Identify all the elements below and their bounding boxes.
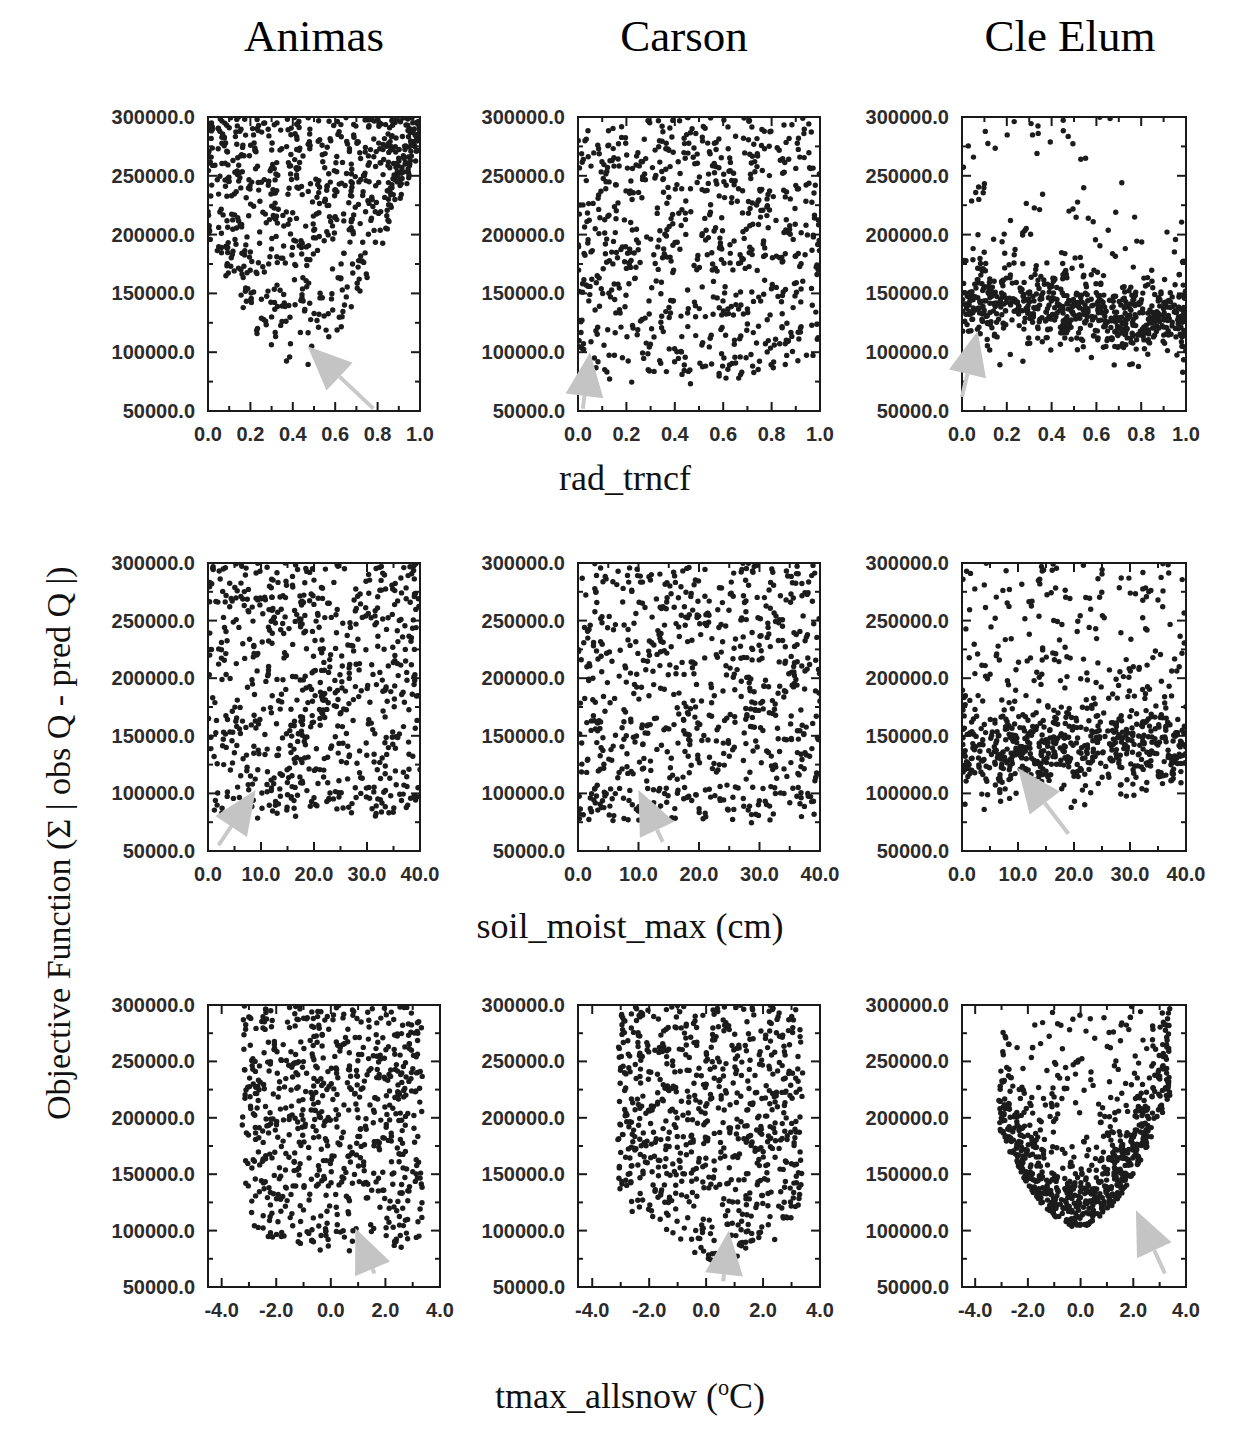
row-label-soil-moist-max: soil_moist_max (cm) [460, 908, 800, 944]
y-tick-label: 150000.0 [482, 1163, 565, 1185]
x-tick-label: 0.8 [758, 423, 786, 445]
y-tick-label: 300000.0 [866, 994, 949, 1016]
x-tick-label: 0.0 [317, 1299, 345, 1321]
y-tick-label: 200000.0 [482, 667, 565, 689]
y-tick-label: 300000.0 [482, 106, 565, 128]
x-tick-label: 20.0 [1055, 863, 1094, 885]
y-tick-label: 200000.0 [866, 224, 949, 246]
scatter-panel: 50000.0100000.0150000.0200000.0250000.03… [448, 103, 842, 455]
column-title-cle-elum: Cle Elum [955, 14, 1185, 59]
data-points [576, 115, 823, 387]
column-title-carson: Carson [578, 14, 790, 59]
data-points [205, 114, 422, 367]
y-tick-label: 100000.0 [112, 782, 195, 804]
x-tick-label: 2.0 [1119, 1299, 1147, 1321]
y-tick-label: 50000.0 [877, 400, 949, 422]
data-points [960, 561, 1189, 813]
scatter-plot: 50000.0100000.0150000.0200000.0250000.03… [448, 549, 842, 895]
x-tick-label: 40.0 [401, 863, 440, 885]
x-tick-label: 10.0 [999, 863, 1038, 885]
x-tick-label: 1.0 [406, 423, 434, 445]
y-tick-label: 150000.0 [112, 1163, 195, 1185]
arrow-shaft [219, 826, 232, 845]
x-tick-label: 20.0 [680, 863, 719, 885]
arrow-shaft [340, 377, 374, 409]
x-tick-label: 0.2 [993, 423, 1021, 445]
scatter-panel: 50000.0100000.0150000.0200000.0250000.03… [78, 103, 442, 455]
scatter-plot: 50000.0100000.0150000.0200000.0250000.03… [832, 991, 1208, 1331]
y-tick-label: 200000.0 [112, 667, 195, 689]
x-tick-label: 0.8 [1127, 423, 1155, 445]
x-tick-label: 2.0 [749, 1299, 777, 1321]
y-tick-label: 100000.0 [866, 782, 949, 804]
x-tick-label: 30.0 [348, 863, 387, 885]
x-tick-label: -2.0 [259, 1299, 293, 1321]
x-tick-label: 0.4 [661, 423, 690, 445]
x-tick-label: 0.6 [709, 423, 737, 445]
y-tick-label: 300000.0 [112, 106, 195, 128]
y-tick-label: 150000.0 [482, 725, 565, 747]
scatter-plot: 50000.0100000.0150000.0200000.0250000.03… [448, 991, 842, 1331]
scatter-plot: 50000.0100000.0150000.0200000.0250000.03… [832, 103, 1208, 455]
x-tick-label: 0.0 [692, 1299, 720, 1321]
y-tick-label: 300000.0 [482, 552, 565, 574]
y-tick-label: 100000.0 [482, 341, 565, 363]
scatter-panel: 50000.0100000.0150000.0200000.0250000.03… [448, 991, 842, 1331]
y-tick-label: 50000.0 [123, 840, 195, 862]
x-tick-label: 2.0 [372, 1299, 400, 1321]
y-tick-label: 300000.0 [112, 552, 195, 574]
x-tick-label: 1.0 [1172, 423, 1200, 445]
x-tick-label: -4.0 [575, 1299, 609, 1321]
x-tick-label: 0.0 [564, 423, 592, 445]
y-tick-label: 150000.0 [482, 282, 565, 304]
scatter-plot: 50000.0100000.0150000.0200000.0250000.03… [78, 991, 462, 1331]
x-tick-label: 0.2 [612, 423, 640, 445]
annotation-arrow [1136, 1210, 1172, 1273]
y-tick-label: 100000.0 [112, 341, 195, 363]
y-tick-label: 250000.0 [112, 610, 195, 632]
x-tick-label: 4.0 [1172, 1299, 1200, 1321]
x-tick-label: 0.8 [364, 423, 392, 445]
y-tick-label: 250000.0 [866, 610, 949, 632]
y-tick-label: 100000.0 [112, 1220, 195, 1242]
x-tick-label: 1.0 [806, 423, 834, 445]
scatter-panel: 50000.0100000.0150000.0200000.0250000.03… [832, 991, 1208, 1331]
y-tick-label: 50000.0 [123, 400, 195, 422]
y-tick-label: 100000.0 [482, 782, 565, 804]
plot-frame [962, 117, 1186, 411]
y-tick-label: 250000.0 [482, 610, 565, 632]
y-tick-label: 300000.0 [112, 994, 195, 1016]
x-tick-label: 20.0 [295, 863, 334, 885]
annotation-arrow [949, 331, 986, 397]
data-points [996, 1004, 1172, 1229]
y-tick-label: 150000.0 [112, 282, 195, 304]
x-tick-label: 4.0 [806, 1299, 834, 1321]
row-label-tmax-allsnow: tmax_allsnow (oC) [440, 1378, 820, 1414]
y-tick-label: 200000.0 [112, 1107, 195, 1129]
y-tick-label: 250000.0 [866, 165, 949, 187]
arrow-shaft [657, 830, 663, 842]
scatter-panel: 50000.0100000.0150000.0200000.0250000.03… [78, 991, 462, 1331]
y-tick-label: 150000.0 [866, 725, 949, 747]
annotation-arrow [308, 346, 374, 408]
y-tick-label: 150000.0 [866, 282, 949, 304]
x-tick-label: 30.0 [1111, 863, 1150, 885]
y-tick-label: 250000.0 [112, 165, 195, 187]
y-tick-label: 100000.0 [482, 1220, 565, 1242]
y-axis-label: Objective Function (Σ | obs Q - pred Q |… [42, 566, 76, 1120]
x-tick-label: 0.0 [564, 863, 592, 885]
arrow-shaft [1045, 803, 1069, 834]
data-points [960, 115, 1189, 375]
y-tick-label: 150000.0 [112, 725, 195, 747]
y-tick-label: 300000.0 [482, 994, 565, 1016]
arrow-head [949, 331, 986, 378]
y-tick-label: 200000.0 [866, 1107, 949, 1129]
scatter-plot: 50000.0100000.0150000.0200000.0250000.03… [448, 103, 842, 455]
row-label-rad-trncf: rad_trncf [500, 460, 750, 496]
y-tick-label: 100000.0 [866, 1220, 949, 1242]
y-tick-label: 50000.0 [493, 400, 565, 422]
scatter-plot: 50000.0100000.0150000.0200000.0250000.03… [78, 103, 442, 455]
x-tick-label: 30.0 [740, 863, 779, 885]
x-tick-label: 0.6 [1082, 423, 1110, 445]
x-tick-label: 0.6 [321, 423, 349, 445]
